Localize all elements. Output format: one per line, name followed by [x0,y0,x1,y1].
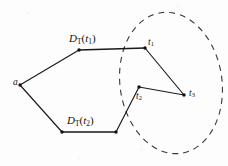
edge-a-to-upper-corner [20,50,79,85]
edge-upper-corner-to-t1 [79,48,145,50]
figure-container: a DT(t1) DT(t2) t1 t2 t3 [0,0,228,166]
label-upper-region-base: D [69,32,77,44]
vertex-markers [18,46,185,133]
vertex-lower-left-dot [60,130,63,133]
vertex-lower-right-dot [114,130,117,133]
label-lower-region: DT(t2) [67,115,94,127]
edge-t3-to-t2 [139,87,184,95]
vertex-t3-dot [182,93,185,96]
label-upper-region: DT(t1) [69,33,96,45]
label-source-a: a [13,78,18,88]
polygon-edges [20,48,184,132]
label-upper-region-close-paren: ) [92,32,96,44]
label-target-t1-sub: 1 [151,40,154,47]
label-target-t3: t3 [189,89,195,99]
edge-lower-left-to-a [20,85,62,132]
label-lower-region-close-paren: ) [90,114,94,126]
label-target-t2: t2 [136,92,142,102]
edge-t1-to-t3 [145,48,184,95]
label-target-t1: t1 [148,38,154,48]
label-target-t2-sub: 2 [139,94,142,101]
dashed-region-ellipse [111,6,228,161]
label-target-t3-sub: 3 [192,91,195,98]
label-lower-region-base: D [67,114,75,126]
figure-drawing [0,0,228,166]
vertex-t2-dot [137,85,140,88]
vertex-t1-dot [143,46,146,49]
vertex-upper-corner-dot [77,48,80,51]
vertex-a-dot [18,83,21,86]
